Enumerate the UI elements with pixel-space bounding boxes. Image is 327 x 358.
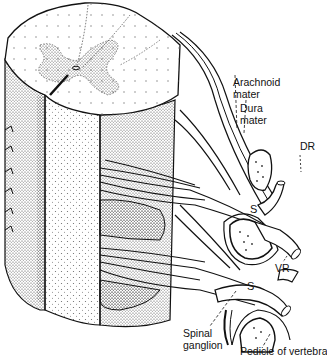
spinal-cord-diagram: Arachnoid mater Dura mater DR S VR S Spi… [0,0,327,358]
label-pedicle-of-vertebra: Pedicle of vertebra [240,345,327,357]
label-dorsal-root: DR [300,140,315,152]
label-ventral-root: VR [275,262,290,274]
label-spinal-ganglion-line1: Spinal [183,327,223,339]
pedicle-upper [248,150,272,190]
label-spinal-ganglion-line2: ganglion [183,339,223,351]
label-s-upper: S [250,203,257,215]
label-dura-mater: Dura mater [240,102,267,126]
label-arachnoid-line2: mater [233,88,280,100]
dr-leader [300,155,301,172]
label-spinal-ganglion: Spinal ganglion [183,327,223,351]
spinal-cord-illustration [0,0,327,358]
ganglion-contour-inner [230,310,232,345]
ganglion-contour [224,310,228,345]
label-arachnoid-mater: Arachnoid mater [233,76,280,100]
label-arachnoid-line1: Arachnoid [233,76,280,88]
label-s-lower: S [247,280,254,292]
label-dura-line1: Dura [240,102,267,114]
label-dura-line2: mater [240,114,267,126]
